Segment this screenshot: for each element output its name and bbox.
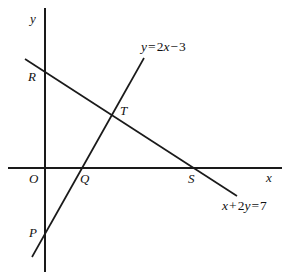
- point-label-T: T: [120, 104, 127, 117]
- origin-label: O: [29, 172, 38, 185]
- y-axis-label: y: [30, 12, 36, 25]
- eq2-constant: 7: [260, 198, 267, 213]
- point-label-R: R: [28, 70, 36, 83]
- point-label-S: S: [188, 172, 195, 185]
- point-label-P: P: [29, 226, 37, 239]
- coordinate-geometry-figure: y x O R P Q S T y=2x−3 x+2y=7: [0, 0, 296, 279]
- x-axis-label: x: [266, 171, 272, 184]
- eq1-minus-sign: −: [169, 39, 179, 54]
- equation-label-line2: x+2y=7: [222, 199, 267, 213]
- equation-label-line1: y=2x−3: [141, 40, 186, 54]
- eq2-equals-sign: =: [250, 198, 260, 213]
- point-label-Q: Q: [80, 172, 89, 185]
- eq1-constant: 3: [179, 39, 186, 54]
- eq2-plus-sign: +: [228, 198, 238, 213]
- line-y-equals-2x-minus-3: [32, 58, 144, 257]
- eq1-equals-sign: =: [147, 39, 157, 54]
